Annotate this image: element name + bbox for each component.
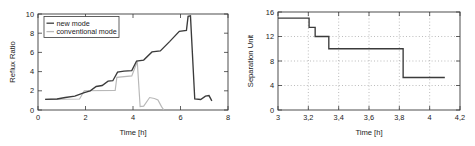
y-tick-label: 16 [266,8,274,17]
reflux-ratio-chart-panel: 0 2 4 6 8 10 0 [0,0,238,146]
grid-lines [278,12,460,110]
x-tick-label: 8 [226,113,230,122]
figure-container: 0 2 4 6 8 10 0 [0,0,475,146]
y-tick-label: 2 [30,86,34,95]
y-axis-tick-labels: 0 4 8 12 16 [266,8,274,115]
y-axis-tick-labels: 0 2 4 6 8 10 [26,10,34,115]
legend: new mode conventional mode [44,17,119,38]
x-axis-label: Time [h] [119,128,146,137]
y-tick-label: 0 [270,106,274,115]
y-tick-label: 4 [30,67,34,76]
y-tick-label: 6 [30,48,34,57]
x-axis-tick-labels: 3 3,2 3,4 3,6 3,8 4 4,2 [276,113,465,122]
y-tick-label: 12 [266,32,274,41]
y-tick-label: 10 [26,10,34,19]
x-axis-tick-labels: 0 2 4 6 8 [36,113,230,122]
x-tick-label: 3,4 [334,113,344,122]
x-tick-label: 4,2 [455,113,465,122]
x-axis-label: Time [h] [355,128,382,137]
reflux-ratio-chart-svg: 0 2 4 6 8 10 0 [0,0,238,146]
legend-label-conventional-mode: conventional mode [57,27,117,36]
x-tick-label: 0 [36,113,40,122]
separation-unit-chart-svg: 0 4 8 12 16 [238,0,475,146]
y-tick-label: 4 [270,81,274,90]
x-tick-label: 4 [428,113,432,122]
series-conventional-mode [45,62,164,110]
x-tick-label: 6 [178,113,182,122]
x-tick-label: 3,2 [303,113,313,122]
series-separation-unit [278,18,445,77]
x-tick-label: 3,6 [364,113,374,122]
y-tick-label: 0 [30,106,34,115]
x-tick-label: 4 [131,113,135,122]
separation-unit-chart-panel: 0 4 8 12 16 [238,0,475,146]
y-tick-label: 8 [30,29,34,38]
y-axis-label: Separation Unit [246,34,255,87]
x-tick-label: 2 [83,113,87,122]
y-axis-label: Reflux Ratio [8,41,17,82]
y-tick-label: 8 [270,57,274,66]
x-tick-label: 3 [276,113,280,122]
x-tick-label: 3,8 [394,113,404,122]
